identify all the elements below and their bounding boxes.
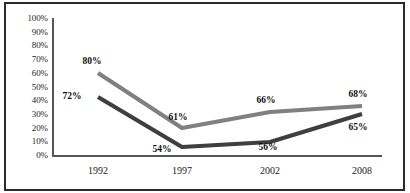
lower-series-line — [98, 97, 362, 147]
x-axis-tick-1997: 1997 — [152, 166, 212, 176]
data-label-lower-1997: 54% — [142, 144, 182, 154]
chart-figure: 100% 90% 80% 70% 60% 50% 40% 30% 20% 10%… — [0, 0, 410, 193]
data-label-lower-1992: 72% — [52, 91, 92, 101]
x-axis-tick-2002: 2002 — [240, 166, 300, 176]
data-label-lower-2002: 56% — [248, 142, 288, 152]
data-label-upper-2008: 68% — [338, 89, 378, 99]
data-label-upper-2002: 66% — [246, 95, 286, 105]
data-label-upper-1997: 61% — [158, 112, 198, 122]
x-axis-tick-1992: 1992 — [68, 166, 128, 176]
data-label-lower-2008: 65% — [338, 122, 378, 132]
x-axis-tick-2008: 2008 — [332, 166, 392, 176]
data-label-upper-1992: 80% — [72, 56, 112, 66]
